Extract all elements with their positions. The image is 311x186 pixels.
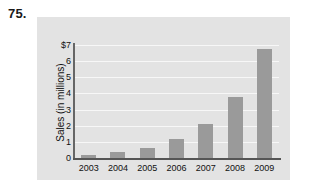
gridline [74, 45, 279, 46]
y-tick-label: 2 [45, 122, 71, 131]
plot-area [74, 45, 279, 158]
problem-number: 75. [8, 6, 27, 21]
y-axis-line [73, 43, 75, 160]
gridline [74, 110, 279, 111]
y-axis-tick-labels: $76543210 [43, 45, 71, 158]
y-tick-label: 1 [45, 138, 71, 147]
y-tick-label: 0 [45, 154, 71, 163]
x-tick-label: 2007 [191, 163, 220, 173]
y-tick-label: 6 [45, 57, 71, 66]
x-axis-tick-labels: 2003200420052006200720082009 [74, 163, 279, 175]
x-tick-label: 2009 [250, 163, 279, 173]
x-tick-label: 2004 [103, 163, 132, 173]
figure: 75. Sales (in millions) $76543210 200320… [0, 0, 311, 186]
gridline [74, 61, 279, 62]
x-tick-label: 2008 [220, 163, 249, 173]
bar [257, 49, 272, 158]
x-tick-label: 2003 [74, 163, 103, 173]
y-tick-label: 5 [45, 73, 71, 82]
gridline [74, 93, 279, 94]
bar [198, 124, 213, 158]
x-tick-label: 2006 [162, 163, 191, 173]
bar [228, 97, 243, 158]
bar [169, 139, 184, 158]
gridline [74, 77, 279, 78]
y-tick-label: $7 [45, 41, 71, 50]
x-tick-label: 2005 [133, 163, 162, 173]
y-tick-label: 4 [45, 89, 71, 98]
gridline [74, 126, 279, 127]
x-axis-line [73, 158, 281, 160]
y-tick-label: 3 [45, 106, 71, 115]
bar [140, 148, 155, 158]
